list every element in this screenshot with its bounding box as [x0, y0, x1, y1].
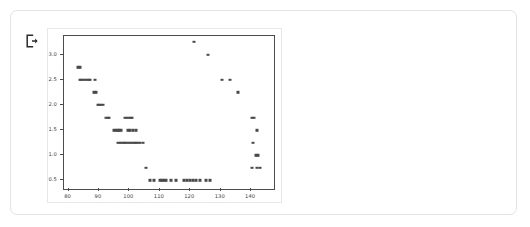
y-axis-tick: [60, 79, 63, 80]
logout-exit-icon[interactable]: [25, 34, 39, 48]
outer-card-panel: 0.51.01.52.02.53.08090100110120130140: [10, 10, 517, 215]
y-axis-tick: [60, 104, 63, 105]
scatter-point: [89, 79, 92, 81]
scatter-point: [79, 66, 82, 68]
y-axis-tick: [60, 179, 63, 180]
y-axis-tick-label: 2.5: [43, 76, 57, 82]
scatter-point: [169, 179, 172, 181]
y-axis-tick-label: 1.5: [43, 126, 57, 132]
scatter-point: [165, 179, 168, 181]
scatter-point: [152, 179, 155, 181]
x-axis-tick-label: 80: [60, 193, 76, 199]
scatter-point: [206, 53, 209, 55]
scatter-point: [148, 179, 151, 181]
x-axis-tick: [189, 188, 190, 191]
y-axis-tick: [60, 154, 63, 155]
y-axis-tick: [60, 129, 63, 130]
scatter-point: [108, 116, 111, 118]
x-axis-tick-label: 130: [212, 193, 228, 199]
scatter-point: [120, 129, 123, 131]
screenshot-root: 0.51.01.52.02.53.08090100110120130140: [0, 0, 530, 227]
scatter-point: [221, 79, 224, 81]
y-axis-tick-label: 2.0: [43, 101, 57, 107]
x-axis-tick-label: 110: [151, 193, 167, 199]
scatter-point: [199, 179, 202, 181]
x-axis-tick-label: 120: [181, 193, 197, 199]
scatter-point: [131, 116, 134, 118]
scatter-point: [142, 141, 145, 143]
x-axis-tick: [98, 188, 99, 191]
scatter-point: [257, 154, 260, 156]
x-axis-tick: [128, 188, 129, 191]
x-axis-tick: [250, 188, 251, 191]
scatter-point: [252, 141, 255, 143]
scatter-point: [193, 41, 196, 43]
y-axis-tick: [60, 54, 63, 55]
scatter-point: [175, 179, 178, 181]
plot-axes-area: [63, 35, 275, 190]
scatter-point: [237, 91, 240, 93]
scatter-point: [259, 167, 262, 169]
scatter-figure: 0.51.01.52.02.53.08090100110120130140: [48, 29, 281, 202]
scatter-point: [128, 129, 131, 131]
scatter-point: [209, 179, 212, 181]
scatter-point: [204, 179, 207, 181]
x-axis-tick: [68, 188, 69, 191]
scatter-point: [252, 116, 255, 118]
scatter-point: [94, 91, 97, 93]
y-axis-tick-label: 1.0: [43, 151, 57, 157]
scatter-point: [229, 79, 232, 81]
scatter-point: [255, 129, 258, 131]
y-axis-tick-label: 3.0: [43, 51, 57, 57]
x-axis-tick: [220, 188, 221, 191]
scatter-point: [194, 179, 197, 181]
x-axis-tick-label: 140: [242, 193, 258, 199]
x-axis-tick-label: 90: [90, 193, 106, 199]
scatter-point: [134, 129, 137, 131]
scatter-point: [101, 104, 104, 106]
x-axis-tick-label: 100: [120, 193, 136, 199]
scatter-point: [144, 167, 147, 169]
y-axis-tick-label: 0.5: [43, 176, 57, 182]
scatter-point: [94, 79, 97, 81]
chart-container: 0.51.01.52.02.53.08090100110120130140: [47, 28, 282, 203]
x-axis-tick: [159, 188, 160, 191]
scatter-point: [250, 167, 253, 169]
